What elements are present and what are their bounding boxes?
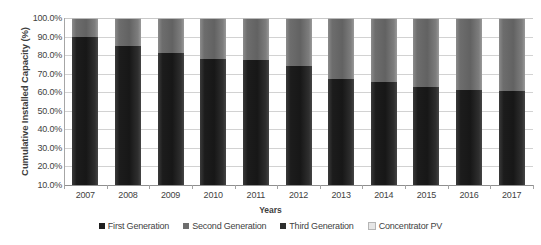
legend-label: Second Generation bbox=[192, 221, 266, 231]
bar-2011 bbox=[243, 18, 269, 185]
bar-segment-second-generation bbox=[456, 19, 482, 90]
y-axis-tick-label: 50.0% bbox=[22, 107, 62, 116]
bar-2010 bbox=[200, 18, 226, 185]
bar-segment-second-generation bbox=[158, 19, 184, 53]
bar-segment-first-generation bbox=[371, 82, 397, 185]
x-axis-tick bbox=[320, 185, 321, 189]
bar-segment-concentrator-pv bbox=[371, 18, 397, 19]
x-axis-tick bbox=[533, 185, 534, 189]
bar-segment-second-generation bbox=[243, 19, 269, 59]
x-axis-line bbox=[64, 185, 534, 186]
bar-segment-first-generation bbox=[456, 90, 482, 185]
legend-item-first-generation[interactable]: First Generation bbox=[99, 221, 169, 231]
bar-2007 bbox=[72, 18, 98, 185]
bar-2009 bbox=[158, 18, 184, 185]
stacked-bar-chart: Cumulative Installed Capacity (%) 100.0%… bbox=[0, 0, 541, 245]
x-axis-tick bbox=[362, 185, 363, 189]
bar-2016 bbox=[456, 18, 482, 185]
x-axis-tick bbox=[490, 185, 491, 189]
bar-segment-concentrator-pv bbox=[243, 18, 269, 19]
bar-segment-first-generation bbox=[286, 66, 312, 185]
bar-segment-concentrator-pv bbox=[158, 18, 184, 19]
y-axis-tick-label: 90.0% bbox=[22, 33, 62, 42]
bar-segment-concentrator-pv bbox=[200, 18, 226, 19]
bar-segment-second-generation bbox=[72, 19, 98, 36]
bar-segment-first-generation bbox=[499, 91, 525, 185]
x-axis-tick bbox=[149, 185, 150, 189]
y-axis-tick-label: 40.0% bbox=[22, 125, 62, 134]
bar-2012 bbox=[286, 18, 312, 185]
bar-segment-second-generation bbox=[115, 19, 141, 46]
x-axis-tick bbox=[277, 185, 278, 189]
y-axis-tick-label: 10.0% bbox=[22, 181, 62, 190]
legend-item-second-generation[interactable]: Second Generation bbox=[183, 221, 266, 231]
bar-segment-concentrator-pv bbox=[115, 18, 141, 19]
y-axis-tick-label: 80.0% bbox=[22, 51, 62, 60]
bar-segment-concentrator-pv bbox=[328, 18, 354, 19]
legend-label: First Generation bbox=[108, 221, 169, 231]
legend-label: Third Generation bbox=[289, 221, 353, 231]
bar-2008 bbox=[115, 18, 141, 185]
y-axis-tick-label: 60.0% bbox=[22, 88, 62, 97]
x-axis-tick bbox=[64, 185, 65, 189]
bar-2015 bbox=[413, 18, 439, 185]
bar-2017 bbox=[499, 18, 525, 185]
bar-2013 bbox=[328, 18, 354, 185]
y-axis-tick-label: 100.0% bbox=[22, 14, 62, 23]
legend-item-third-generation[interactable]: Third Generation bbox=[280, 221, 353, 231]
bar-segment-first-generation bbox=[158, 53, 184, 185]
bar-segment-second-generation bbox=[413, 19, 439, 86]
x-axis-tick bbox=[192, 185, 193, 189]
bar-segment-concentrator-pv bbox=[499, 18, 525, 19]
y-axis-tick-labels: 100.0%90.0%80.0%70.0%60.0%50.0%40.0%30.0… bbox=[22, 12, 62, 192]
bar-segment-first-generation bbox=[72, 37, 98, 185]
chart-legend: First GenerationSecond GenerationThird G… bbox=[0, 221, 541, 231]
legend-swatch-icon bbox=[368, 222, 376, 230]
legend-item-concentrator-pv[interactable]: Concentrator PV bbox=[368, 221, 443, 231]
bar-segment-concentrator-pv bbox=[72, 18, 98, 19]
bar-2014 bbox=[371, 18, 397, 185]
y-axis-tick-label: 20.0% bbox=[22, 162, 62, 171]
bar-segment-first-generation bbox=[328, 79, 354, 185]
bar-segment-second-generation bbox=[371, 19, 397, 82]
x-axis-tick bbox=[235, 185, 236, 189]
bar-segment-second-generation bbox=[286, 19, 312, 66]
legend-swatch-icon bbox=[280, 223, 286, 229]
bar-segment-first-generation bbox=[115, 46, 141, 185]
bar-segment-first-generation bbox=[243, 60, 269, 185]
bar-segment-second-generation bbox=[499, 19, 525, 91]
y-axis-tick-label: 30.0% bbox=[22, 144, 62, 153]
bar-segment-second-generation bbox=[200, 19, 226, 59]
legend-label: Concentrator PV bbox=[379, 221, 443, 231]
bar-segment-concentrator-pv bbox=[456, 18, 482, 19]
x-axis-tick bbox=[448, 185, 449, 189]
x-axis-title: Years bbox=[0, 205, 541, 215]
y-axis-tick-label: 70.0% bbox=[22, 70, 62, 79]
bar-segment-concentrator-pv bbox=[286, 18, 312, 19]
bar-segment-first-generation bbox=[200, 59, 226, 185]
bar-segment-second-generation bbox=[328, 19, 354, 79]
x-axis-label-2017: 2017 bbox=[487, 190, 537, 200]
bar-segment-concentrator-pv bbox=[413, 18, 439, 19]
bar-segment-first-generation bbox=[413, 87, 439, 185]
legend-swatch-icon bbox=[99, 223, 105, 229]
x-axis-tick bbox=[107, 185, 108, 189]
legend-swatch-icon bbox=[183, 223, 189, 229]
x-axis-tick bbox=[405, 185, 406, 189]
